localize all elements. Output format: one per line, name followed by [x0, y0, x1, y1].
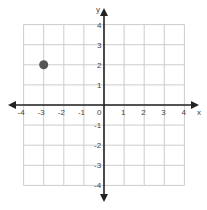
- coordinate-plane: x y -4-3-2-1012344321-1-2-3-4: [0, 0, 207, 210]
- y-axis-label: y: [96, 5, 100, 14]
- y-tick-label: 1: [97, 81, 102, 90]
- x-tick-label: 0: [97, 108, 102, 117]
- x-tick-label: 2: [141, 108, 146, 117]
- x-tick-label: -3: [38, 108, 46, 117]
- x-tick-label: 3: [161, 108, 166, 117]
- y-tick-label: -3: [94, 161, 102, 170]
- x-tick-label: -4: [18, 108, 26, 117]
- y-axis-down-arrow-icon: [100, 194, 108, 202]
- x-tick-label: -1: [78, 108, 86, 117]
- x-axis-left-arrow-icon: [8, 101, 16, 109]
- y-tick-label: -4: [94, 181, 102, 190]
- y-tick-label: -1: [94, 121, 102, 130]
- y-tick-label: 4: [97, 21, 102, 30]
- axes: x y: [8, 5, 201, 202]
- x-tick-label: 1: [121, 108, 126, 117]
- x-tick-label: -2: [58, 108, 66, 117]
- y-axis-up-arrow-icon: [100, 8, 108, 16]
- x-tick-label: 4: [181, 108, 186, 117]
- y-tick-label: 3: [97, 41, 102, 50]
- x-axis-label: x: [197, 108, 201, 117]
- data-points: [39, 60, 48, 69]
- data-point: [39, 60, 48, 69]
- y-tick-label: 2: [97, 61, 102, 70]
- y-tick-label: -2: [94, 141, 102, 150]
